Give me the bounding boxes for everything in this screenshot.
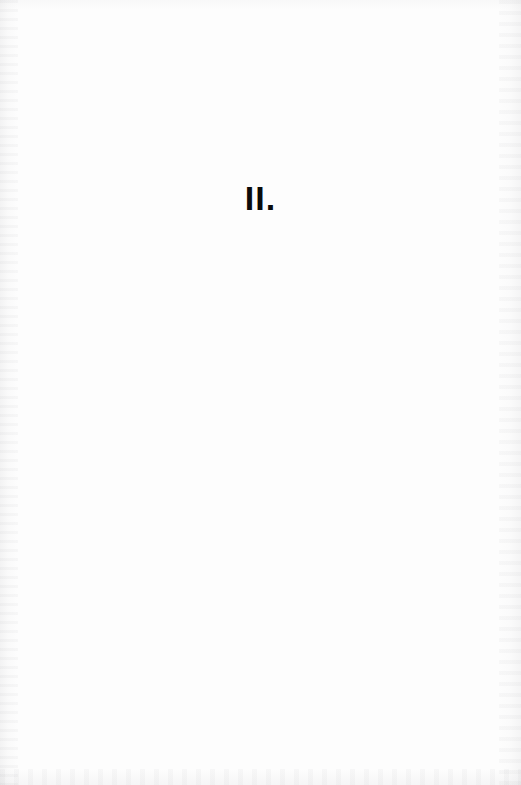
page-body-blank [60,235,460,705]
scanned-page: II. [0,0,521,785]
section-number-heading: II. [0,178,521,218]
page-content: II. [0,0,521,785]
